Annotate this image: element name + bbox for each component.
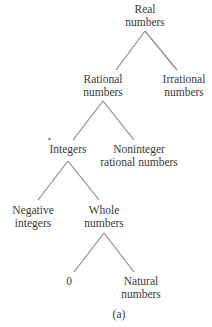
node-label: numbers bbox=[83, 86, 123, 99]
node-label: numbers bbox=[84, 217, 124, 230]
edge-whole-natural bbox=[104, 233, 134, 272]
node-zero: 0 bbox=[66, 275, 72, 288]
node-label: numbers bbox=[125, 16, 165, 29]
edge-rational-integers bbox=[73, 101, 103, 140]
node-irrational-numbers: Irrational numbers bbox=[163, 73, 206, 99]
node-label: rational numbers bbox=[100, 156, 178, 169]
node-rational-numbers: Rational numbers bbox=[83, 73, 123, 99]
node-real-numbers: Real numbers bbox=[125, 3, 165, 29]
node-natural-numbers: Natural numbers bbox=[121, 275, 161, 301]
node-label: integers bbox=[12, 217, 54, 230]
node-label: Noninteger bbox=[100, 143, 178, 156]
edge-real-rational bbox=[116, 31, 145, 70]
edge-rational-noninteger bbox=[103, 101, 134, 140]
node-label: Integers bbox=[49, 143, 86, 156]
node-whole-numbers: Whole numbers bbox=[84, 204, 124, 230]
node-negative-integers: Negative integers bbox=[12, 204, 54, 230]
node-integers: Integers bbox=[49, 143, 86, 156]
node-label: Rational bbox=[83, 73, 123, 86]
node-label: numbers bbox=[163, 86, 206, 99]
node-label: Natural bbox=[121, 275, 161, 288]
node-label: Irrational bbox=[163, 73, 206, 86]
node-label: 0 bbox=[66, 275, 72, 288]
edge-real-irrational bbox=[145, 31, 177, 70]
edge-integers-negative bbox=[38, 161, 68, 200]
node-label: numbers bbox=[121, 288, 161, 301]
node-label: Real bbox=[125, 3, 165, 16]
figure-caption: (a) bbox=[113, 308, 126, 320]
edge-integers-whole bbox=[68, 161, 99, 200]
node-noninteger-rational: Noninteger rational numbers bbox=[100, 143, 178, 169]
node-label: Negative bbox=[12, 204, 54, 217]
edge-whole-zero bbox=[74, 233, 104, 272]
node-label: Whole bbox=[84, 204, 124, 217]
stray-mark-icon: • bbox=[48, 135, 51, 144]
